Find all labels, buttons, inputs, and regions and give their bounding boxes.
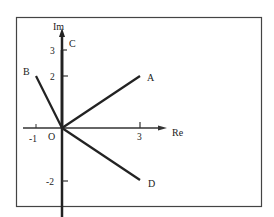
tick-label-y-neg2: -2: [46, 177, 54, 187]
origin-label: O: [48, 131, 55, 142]
point-label-A: A: [147, 72, 155, 83]
tick-label-y-3: 3: [50, 46, 55, 56]
point-label-C: C: [69, 38, 76, 49]
point-label-D: D: [148, 178, 155, 189]
point-label-B: B: [23, 66, 30, 77]
tick-label-x-3: 3: [137, 132, 142, 142]
tick-label-y-2: 2: [50, 72, 55, 82]
x-axis-label: Re: [172, 127, 184, 138]
complex-plane-diagram: Im Re O -1 3 3 2 -2 A B C D: [0, 0, 274, 217]
tick-label-x-neg1: -1: [29, 134, 37, 144]
y-axis-label: Im: [53, 21, 64, 32]
